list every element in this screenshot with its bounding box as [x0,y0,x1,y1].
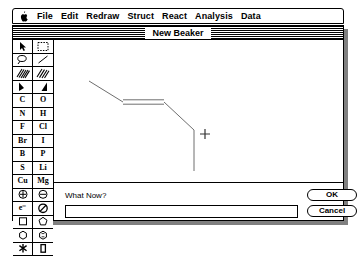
menu-item-react[interactable]: React [162,10,187,22]
palette-row: BP [13,148,53,162]
menu-bar: File Edit Redraw Struct React Analysis D… [12,8,344,24]
ok-button[interactable]: OK [307,189,357,201]
pentagon-ring-tool-icon[interactable] [33,216,53,230]
no-charge-tool-icon[interactable] [33,202,53,216]
palette-row [13,54,53,68]
bond-tool-icon[interactable] [33,54,53,68]
marquee-tool-icon[interactable] [33,40,53,54]
palette-row [13,243,53,256]
palette-row: BrI [13,135,53,149]
menu-item-redraw[interactable]: Redraw [86,10,119,22]
palette-cell-label: F [20,123,25,131]
palette-row [13,67,53,81]
prompt-dialog: What Now? OK Cancel [54,183,343,220]
palette-row: NH [13,108,53,122]
electron-tool-button[interactable]: e⁻ [13,202,33,216]
asterisk-tool-icon[interactable] [13,243,33,256]
palette-cell-label: N [20,110,26,118]
palette-cell-label: Cl [39,123,47,131]
palette-row: e⁻ [13,202,53,216]
hexagon-ring-aromatic-tool-icon[interactable] [33,229,53,243]
menu-item-edit[interactable]: Edit [61,10,78,22]
element-nitrogen-button[interactable]: N [13,108,33,122]
pointer-tool-icon[interactable] [13,40,33,54]
palette-row: FCl [13,121,53,135]
element-chlorine-button[interactable]: Cl [33,121,53,135]
window-title: New Beaker [145,27,210,39]
palette-row: CO [13,94,53,108]
palette-cell-label: B [20,150,25,158]
palette-cell-label: Cu [17,177,27,185]
hashed-bond-alt-tool-icon[interactable] [33,67,53,81]
element-magnesium-button[interactable]: Mg [33,175,53,189]
palette-cell-label: S [20,164,24,172]
palette-row [13,216,53,230]
menu-item-file[interactable]: File [37,10,53,22]
hashed-bond-tool-icon[interactable] [13,67,33,81]
answer-input[interactable] [65,205,298,218]
menu-item-data[interactable]: Data [241,10,261,22]
element-sulfur-button[interactable]: S [13,162,33,176]
tool-palette: CONHFClBrIBPSLiCuMge⁻ [13,40,54,220]
palette-cell-label: O [40,96,46,104]
element-phosphorus-button[interactable]: P [33,148,53,162]
palette-cell-label: Br [18,137,27,145]
lasso-tool-icon[interactable] [13,54,33,68]
window-title-bar[interactable]: New Beaker [13,26,343,40]
element-carbon-button[interactable]: C [13,94,33,108]
positive-charge-tool-icon[interactable] [13,189,33,203]
palette-row [13,40,53,54]
palette-row: SLi [13,162,53,176]
wedge-bond-tool-icon[interactable] [13,81,33,95]
cancel-button[interactable]: Cancel [307,205,357,217]
palette-row [13,229,53,243]
element-boron-button[interactable]: B [13,148,33,162]
element-fluorine-button[interactable]: F [13,121,33,135]
element-copper-button[interactable]: Cu [13,175,33,189]
element-iodine-button[interactable]: I [33,135,53,149]
element-bromine-button[interactable]: Br [13,135,33,149]
apple-logo-icon[interactable] [20,11,29,22]
palette-cell-label: I [41,137,44,145]
wedge-bond-alt-tool-icon[interactable] [33,81,53,95]
drawing-canvas[interactable] [54,40,343,183]
negative-charge-tool-icon[interactable] [33,189,53,203]
palette-cell-label: P [41,150,46,158]
element-lithium-button[interactable]: Li [33,162,53,176]
hexagon-ring-tool-icon[interactable] [13,229,33,243]
palette-cell-label: Li [39,164,47,172]
menu-item-struct[interactable]: Struct [127,10,154,22]
square-ring-tool-icon[interactable] [13,216,33,230]
element-hydrogen-button[interactable]: H [33,108,53,122]
palette-row: CuMg [13,175,53,189]
menu-item-analysis[interactable]: Analysis [195,10,233,22]
prompt-label: What Now? [65,191,106,201]
palette-cell-label: H [40,110,46,118]
palette-row [13,189,53,203]
document-window: New Beaker CONHFClBrIBPSLiCuMge⁻ What No… [12,25,344,221]
element-oxygen-button[interactable]: O [33,94,53,108]
palette-cell-label: Mg [37,177,49,185]
palette-cell-label: C [20,96,26,104]
crosshair-cursor [54,40,343,183]
palette-cell-label: e⁻ [19,204,27,212]
palette-row [13,81,53,95]
rectangle-tool-icon[interactable] [33,243,53,256]
